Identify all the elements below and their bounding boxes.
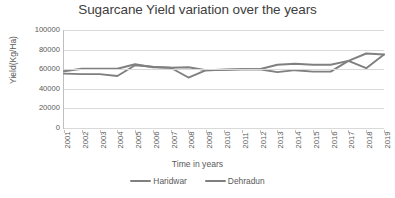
legend-label: Dehradun — [228, 176, 265, 186]
x-axis-tick-label: 2004 — [116, 132, 125, 149]
x-axis-tick-label: 2008 — [187, 132, 196, 149]
y-axis-title: Yield(Kg/Ha) — [8, 20, 18, 100]
x-axis-tick-label: 2006 — [151, 132, 160, 149]
y-axis-tick-label: 100000 — [18, 26, 60, 34]
gridline — [64, 50, 384, 51]
x-axis-tick-label: 2005 — [134, 132, 143, 149]
plot-area — [64, 30, 384, 128]
gridline — [64, 89, 384, 90]
x-axis-tick-label: 2011 — [240, 132, 249, 148]
x-axis-tick-label: 2002 — [80, 132, 89, 149]
legend-label: Haridwar — [153, 176, 187, 186]
x-axis-tick-labels: 2001200220032004200520062007200820092010… — [64, 130, 384, 160]
x-axis-tick-label: 2018 — [365, 132, 374, 149]
legend-swatch-icon — [130, 180, 151, 182]
y-axis-tick-label: 0 — [18, 124, 60, 132]
gridline — [64, 30, 384, 31]
x-axis-tick-label: 2013 — [276, 132, 285, 149]
y-axis-tick-label: 60000 — [18, 65, 60, 73]
x-axis-tick-label: 2001 — [63, 132, 72, 149]
x-axis-tick-label: 2019 — [383, 132, 392, 149]
x-axis-tick-label: 2003 — [98, 132, 107, 149]
chart-title: Sugarcane Yield variation over the years — [0, 2, 395, 17]
x-axis-tick-label: 2015 — [311, 132, 320, 149]
legend-item-dehradun[interactable]: Dehradun — [205, 176, 265, 186]
x-axis-tick-label: 2007 — [169, 132, 178, 149]
x-axis-tick-label: 2016 — [329, 132, 338, 149]
x-axis-tick-label: 2017 — [347, 132, 356, 149]
chart-container: Sugarcane Yield variation over the years… — [0, 0, 395, 198]
series-line-dehradun — [64, 55, 384, 78]
legend-swatch-icon — [205, 180, 226, 182]
gridline — [64, 69, 384, 70]
y-axis-tick-label: 40000 — [18, 85, 60, 93]
x-axis-tick-label: 2012 — [258, 132, 267, 149]
x-axis-tick-label: 2014 — [294, 132, 303, 149]
gridline — [64, 108, 384, 109]
y-axis-tick-labels: 100000800006000040000200000 — [18, 24, 60, 134]
legend-item-haridwar[interactable]: Haridwar — [130, 176, 187, 186]
gridline — [64, 128, 384, 129]
x-axis-tick-label: 2010 — [223, 132, 232, 149]
chart-legend: HaridwarDehradun — [0, 176, 395, 186]
x-axis-title: Time in years — [0, 159, 395, 169]
series-lines — [64, 30, 384, 128]
y-axis-tick-label: 80000 — [18, 46, 60, 54]
x-axis-tick-label: 2009 — [205, 132, 214, 149]
y-axis-tick-label: 20000 — [18, 104, 60, 112]
